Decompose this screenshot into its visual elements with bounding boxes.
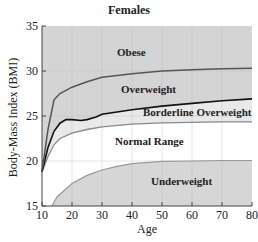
x-tick-50: 50 — [150, 208, 174, 223]
region-label-obese: Obese — [117, 46, 146, 58]
y-tick-35: 35 — [14, 20, 38, 32]
region-label-borderline-overweight: Borderline Overweight — [143, 106, 251, 118]
y-tick-20: 20 — [14, 155, 38, 167]
region-label-overweight: Overweight — [121, 83, 176, 95]
x-tick-30: 30 — [90, 208, 114, 223]
x-tick-10: 10 — [30, 208, 54, 223]
x-tick-70: 70 — [210, 208, 234, 223]
x-tick-20: 20 — [60, 208, 84, 223]
region-label-underweight: Underweight — [151, 175, 212, 187]
region-label-normal-range: Normal Range — [115, 135, 184, 147]
y-tick-25: 25 — [14, 110, 38, 122]
x-tick-60: 60 — [180, 208, 204, 223]
x-tick-80: 80 — [240, 208, 258, 223]
x-tick-40: 40 — [120, 208, 144, 223]
plot-area — [0, 0, 258, 242]
y-tick-30: 30 — [14, 65, 38, 77]
x-axis-label: Age — [42, 222, 252, 237]
